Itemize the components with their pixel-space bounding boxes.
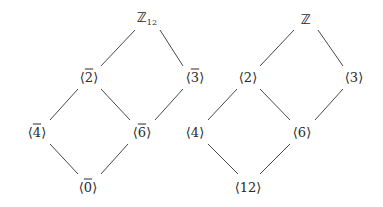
node-z: ℤ	[301, 13, 311, 26]
node-bar-4: ⟨4⟩	[28, 126, 46, 139]
node-6: ⟨6⟩	[293, 126, 311, 139]
node-label: 4	[191, 125, 199, 140]
node-4: ⟨4⟩	[186, 126, 204, 139]
node-label: 2	[244, 70, 252, 85]
node-label: ℤ	[137, 10, 147, 25]
edge	[160, 30, 183, 66]
edge	[50, 89, 78, 120]
edge	[101, 89, 130, 120]
node-3: ⟨3⟩	[345, 71, 363, 84]
node-bar-0: ⟨0⟩	[79, 181, 97, 194]
lattice-edges	[0, 0, 383, 207]
edge	[318, 30, 343, 66]
node-label: 3	[191, 70, 199, 85]
node-label: 3	[350, 70, 358, 85]
node-label: 6	[138, 125, 146, 140]
edge	[101, 30, 135, 66]
node-12: ⟨12⟩	[235, 181, 262, 194]
node-2: ⟨2⟩	[239, 71, 257, 84]
node-subscript: 12	[147, 18, 157, 27]
edge	[315, 89, 343, 120]
edge	[155, 89, 183, 120]
node-label: ℤ	[301, 12, 311, 27]
node-bar-3: ⟨3⟩	[186, 71, 204, 84]
node-label: 6	[298, 125, 306, 140]
node-bar-6: ⟨6⟩	[133, 126, 151, 139]
node-label: 0	[84, 180, 92, 195]
edge	[208, 89, 237, 120]
node-z12: ℤ12	[137, 11, 157, 28]
edge	[260, 89, 290, 120]
node-label: 12	[240, 180, 257, 195]
edge	[260, 30, 294, 66]
edge	[101, 144, 128, 174]
edge	[50, 144, 78, 174]
edge	[260, 144, 290, 174]
edge	[208, 144, 238, 174]
node-label: 4	[33, 125, 41, 140]
node-bar-2: ⟨2⟩	[80, 71, 98, 84]
node-label: 2	[85, 70, 93, 85]
